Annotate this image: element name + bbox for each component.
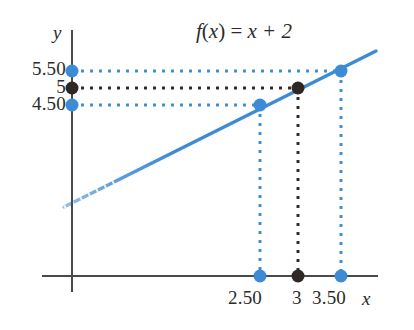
fn-variable: x [209, 19, 218, 43]
function-equation-label: f(x) = x + 2 [196, 19, 292, 44]
guide-vertical-3 [297, 88, 300, 276]
fn-paren-open: ( [202, 19, 209, 43]
x-axis-line [42, 275, 378, 277]
x-tick-label-2-50: 2.50 [228, 287, 262, 309]
axis-point-y-4-50 [66, 99, 79, 112]
data-point-2-50-4-50 [254, 99, 267, 112]
data-point-3-50-5-50 [335, 65, 348, 78]
guide-horizontal-5 [72, 87, 299, 90]
guide-horizontal-5-50 [72, 70, 342, 73]
function-line [0, 0, 414, 330]
axis-point-x-2-50 [254, 270, 267, 283]
data-point-3-5 [292, 82, 305, 95]
guide-vertical-3-50 [340, 71, 343, 276]
fn-expression: x + 2 [248, 19, 293, 43]
function-graph-figure: y x f(x) = x + 2 5.50 5 4.50 2.50 3 3.50 [0, 0, 414, 330]
axis-point-y-5 [66, 82, 79, 95]
guide-vertical-2-50 [259, 105, 262, 276]
x-tick-label-3-50: 3.50 [312, 287, 346, 309]
y-tick-label-4-50: 4.50 [8, 93, 66, 115]
axis-point-x-3-50 [335, 270, 348, 283]
axis-point-x-3 [292, 270, 305, 283]
x-tick-label-3: 3 [292, 287, 302, 309]
fn-equals: = [225, 19, 247, 43]
x-axis-label: x [362, 288, 370, 310]
axis-point-y-5-50 [66, 65, 79, 78]
y-axis-label: y [53, 22, 61, 44]
guide-horizontal-4-50 [72, 104, 261, 107]
